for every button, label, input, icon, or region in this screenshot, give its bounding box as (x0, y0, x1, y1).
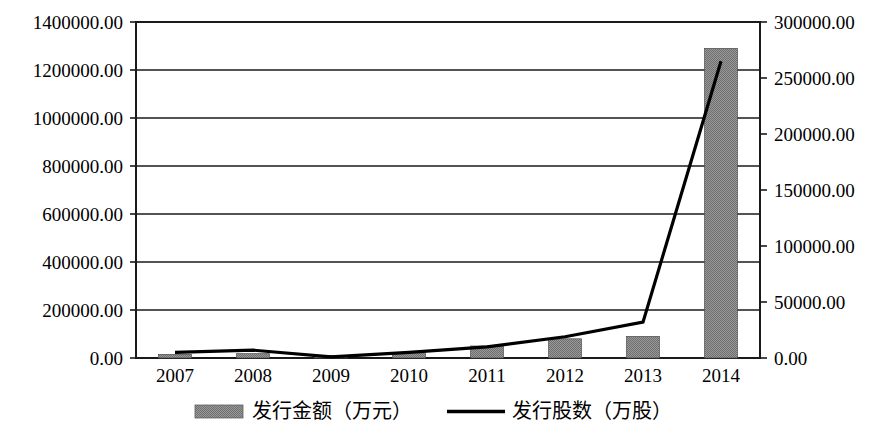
x-axis-label-2011: 2011 (468, 365, 505, 386)
bar-2008 (237, 354, 270, 358)
x-axis-label-2014: 2014 (702, 365, 741, 386)
right-axis-tick-label: 200000.00 (774, 124, 855, 145)
x-axis-label-2009: 2009 (312, 365, 350, 386)
right-axis-tick-label: 250000.00 (774, 68, 855, 89)
chart-container: 0.00200000.00400000.00600000.00800000.00… (0, 0, 893, 425)
left-axis-tick-label: 1400000.00 (33, 12, 123, 33)
x-axis-label-2010: 2010 (390, 365, 428, 386)
legend-label-issue-shares: 发行股数（万股） (512, 399, 672, 423)
combo-chart: 0.00200000.00400000.00600000.00800000.00… (0, 0, 893, 425)
x-axis-label-2007: 2007 (156, 365, 194, 386)
legend-bar-swatch (195, 405, 243, 418)
left-axis-tick-label: 800000.00 (42, 156, 123, 177)
bar-2012 (549, 339, 582, 358)
legend-label-issue-amount: 发行金额（万元） (252, 399, 412, 423)
right-axis-tick-label: 50000.00 (774, 292, 845, 313)
right-axis-tick-label: 150000.00 (774, 180, 855, 201)
bar-2007 (159, 354, 192, 358)
right-axis-tick-label: 100000.00 (774, 236, 855, 257)
left-axis-tick-label: 600000.00 (42, 204, 123, 225)
left-axis-tick-label: 200000.00 (42, 300, 123, 321)
left-axis-tick-label: 400000.00 (42, 252, 123, 273)
bar-2013 (627, 336, 660, 358)
left-axis-tick-label: 1000000.00 (33, 108, 123, 129)
right-axis-tick-label: 300000.00 (774, 12, 855, 33)
left-axis-tick-label: 1200000.00 (33, 60, 123, 81)
right-axis-tick-label: 0.00 (774, 348, 807, 369)
x-axis-label-2008: 2008 (234, 365, 272, 386)
x-axis-label-2013: 2013 (624, 365, 662, 386)
left-axis-tick-label: 0.00 (90, 348, 123, 369)
x-axis-label-2012: 2012 (546, 365, 584, 386)
